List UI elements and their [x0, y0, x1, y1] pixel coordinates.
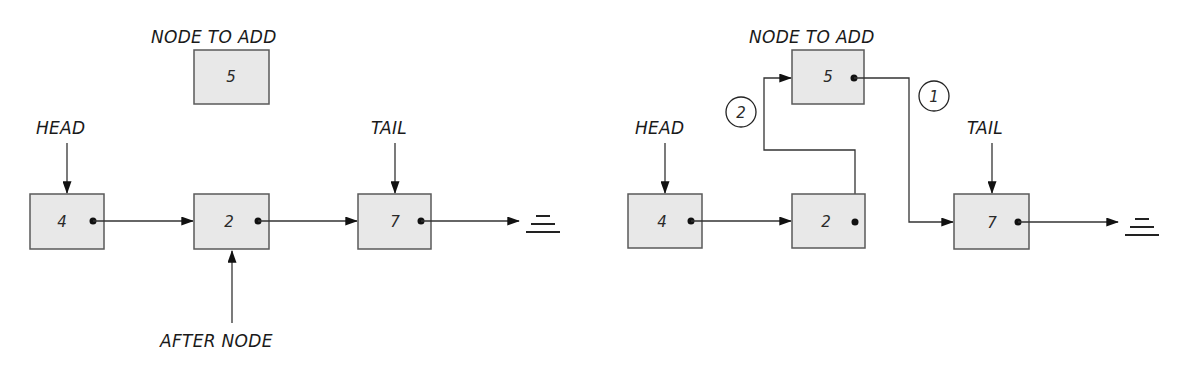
node-value: 2: [821, 213, 831, 231]
list-node: 2: [792, 194, 865, 248]
left-diagram: NODE TO ADD 5 HEAD TAIL 4 2 7: [30, 27, 560, 351]
tail-label: TAIL: [371, 118, 407, 138]
node-to-add: 5: [194, 50, 269, 104]
null-terminator-icon: [526, 216, 560, 232]
list-node: 4: [628, 194, 702, 248]
node-value: 5: [226, 68, 236, 86]
node-value: 4: [57, 213, 67, 231]
step-1-badge: 1: [919, 81, 949, 111]
list-node: 7: [954, 194, 1029, 249]
head-label: HEAD: [635, 118, 684, 138]
node-to-add: 5: [792, 50, 864, 104]
svg-text:2: 2: [736, 104, 746, 122]
head-label: HEAD: [36, 118, 85, 138]
node-value: 7: [390, 213, 400, 231]
node-to-add-label: NODE TO ADD: [151, 27, 277, 47]
node-value: 5: [823, 68, 833, 86]
node-value: 7: [987, 214, 997, 232]
list-node: 4: [30, 194, 104, 249]
svg-text:1: 1: [929, 88, 939, 106]
list-node: 7: [358, 194, 431, 249]
node-to-add-label: NODE TO ADD: [749, 27, 875, 47]
list-node: 2: [194, 194, 269, 249]
node-value: 4: [657, 213, 667, 231]
tail-label: TAIL: [967, 118, 1003, 138]
after-node-label: AFTER NODE: [159, 331, 273, 351]
null-terminator-icon: [1125, 219, 1159, 235]
linked-list-insert-diagram: NODE TO ADD 5 HEAD TAIL 4 2 7: [0, 0, 1187, 369]
right-diagram: NODE TO ADD 5 1 2 HEAD TAIL 4: [628, 27, 1159, 249]
node-value: 2: [224, 213, 234, 231]
step-2-badge: 2: [726, 97, 756, 127]
next-pointer-dot: [852, 219, 859, 226]
